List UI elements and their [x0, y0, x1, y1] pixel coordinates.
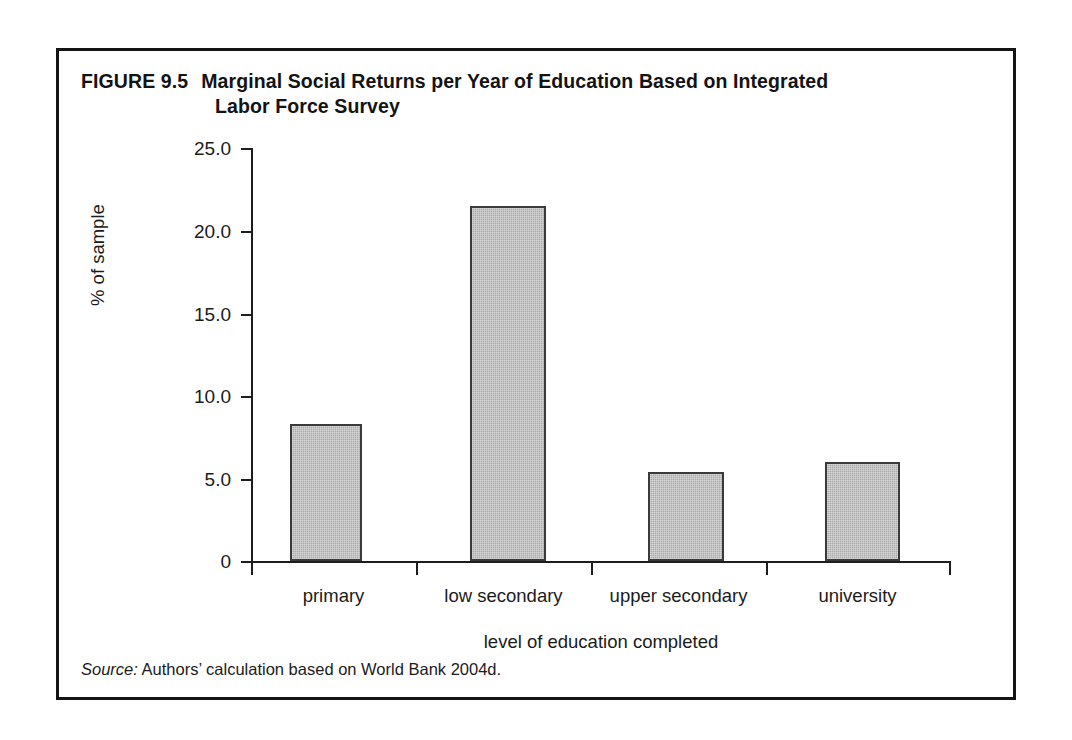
y-tick-20: [241, 231, 252, 233]
figure-box: FIGURE 9.5Marginal Social Returns per Ye…: [56, 48, 1016, 700]
x-category-label-primary: primary: [251, 585, 416, 607]
y-tick-label-10: 10.0: [111, 387, 231, 406]
y-tick-label-0: 0: [111, 552, 231, 571]
y-tick-10: [241, 396, 252, 398]
y-tick-5: [241, 479, 252, 481]
bar-chart: 25.0 20.0 15.0 10.0 5.0 0 primary low se…: [59, 51, 1013, 697]
bar-primary[interactable]: [290, 424, 362, 561]
x-tick-4: [949, 563, 951, 575]
y-tick-label-20: 20.0: [111, 222, 231, 241]
bar-low-secondary[interactable]: [470, 206, 546, 561]
x-axis-title: level of education completed: [251, 631, 951, 653]
x-tick-0: [251, 563, 253, 575]
bar-upper-secondary[interactable]: [648, 472, 724, 561]
x-tick-2: [591, 563, 593, 575]
x-category-label-low-secondary: low secondary: [416, 585, 591, 607]
x-axis-line: [251, 561, 951, 563]
y-tick-25: [241, 148, 252, 150]
source-label: Source:: [81, 660, 138, 678]
bar-university[interactable]: [825, 462, 900, 561]
x-tick-3: [766, 563, 768, 575]
source-note: Source: Authors’ calculation based on Wo…: [81, 660, 501, 679]
y-tick-label-5: 5.0: [111, 470, 231, 489]
y-tick-label-25: 25.0: [111, 139, 231, 158]
y-tick-15: [241, 314, 252, 316]
source-text: Authors’ calculation based on World Bank…: [138, 660, 501, 678]
y-tick-label-15: 15.0: [111, 305, 231, 324]
x-tick-1: [416, 563, 418, 575]
x-category-label-upper-secondary: upper secondary: [591, 585, 766, 607]
y-axis-line: [251, 148, 253, 562]
y-axis-title: % of sample: [87, 204, 109, 306]
x-category-label-university: university: [766, 585, 949, 607]
